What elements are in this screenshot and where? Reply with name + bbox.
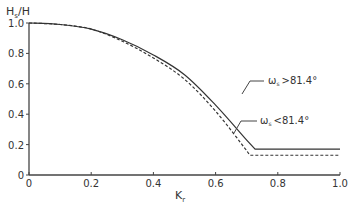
series-line-solid (29, 23, 340, 149)
leader-solid (242, 81, 250, 94)
x-tick-label: 0.2 (83, 178, 99, 189)
y-tick-label: 0.8 (8, 48, 24, 59)
y-tick-label: 0.2 (8, 140, 24, 151)
y-tick-label: 0.6 (8, 79, 24, 90)
legend-dashed-label: ωs<81.4° (260, 115, 309, 127)
annotation-dashed: ωs<81.4° (234, 115, 309, 133)
y-tick-label: 1.0 (8, 18, 24, 29)
x-tick-label: 0.4 (145, 178, 161, 189)
x-tick-label: 0.6 (208, 178, 224, 189)
x-axis-label: Kr (175, 189, 185, 204)
x-tick-label: 0.8 (270, 178, 286, 189)
legend-solid-label: ωs>81.4° (268, 75, 317, 87)
x-tick-label: 1.0 (332, 178, 348, 189)
chart: Hs/H 00.20.40.60.81.000.20.40.60.81.0 Kr… (0, 0, 351, 205)
y-tick-label: 0.4 (8, 109, 24, 120)
y-tick-label: 0 (18, 170, 24, 181)
x-tick-label: 0 (26, 178, 32, 189)
annotation-solid: ωs>81.4° (242, 75, 317, 94)
series-line-dashed (29, 23, 340, 155)
